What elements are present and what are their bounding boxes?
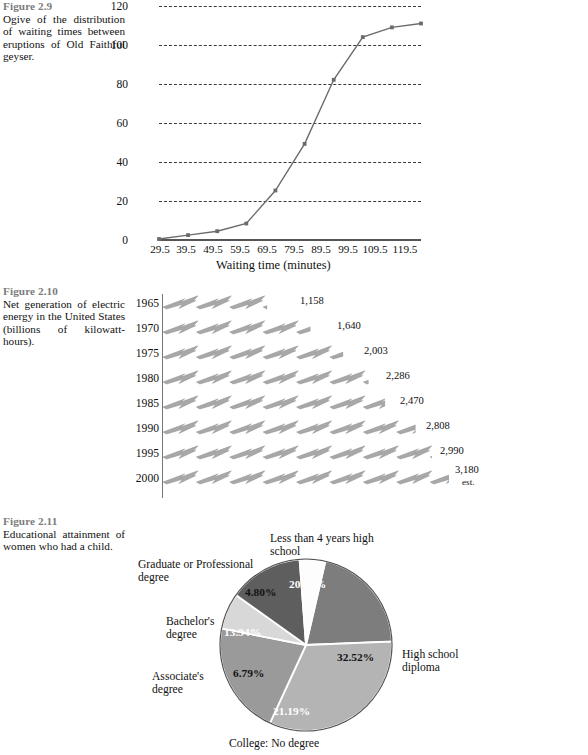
pictograph-bar — [163, 471, 465, 484]
pie-value-less-than-4-years-high-school: 20.75% — [289, 578, 326, 590]
x-axis-title: Waiting time (minutes) — [216, 258, 331, 273]
lightning-bolt-icon — [297, 346, 332, 359]
lightning-bolt-icon — [330, 446, 365, 459]
figure-2-10: Figure 2.10 Net generation of electric e… — [0, 285, 588, 510]
y-tick-120: 120 — [102, 0, 128, 12]
lightning-bolt-icon — [297, 421, 332, 434]
lightning-bolt-icon — [196, 471, 231, 484]
lightning-bolt-icon — [263, 421, 298, 434]
lightning-bolt-icon — [163, 396, 198, 409]
x-tick-4: 69.5 — [253, 243, 281, 255]
pictograph-value-2000: 3,180 — [455, 464, 479, 475]
y-tick-60: 60 — [102, 117, 128, 129]
lightning-bolt-icon — [163, 421, 198, 434]
figure-2-9-caption-text: Ogive of the distribution of waiting tim… — [3, 13, 125, 63]
lightning-bolt-icon — [363, 471, 398, 484]
lightning-bolt-icon — [397, 471, 432, 484]
lightning-bolt-icon — [230, 421, 265, 434]
lightning-bolt-icon — [363, 421, 398, 434]
lightning-bolt-icon — [230, 346, 265, 359]
lightning-bolt-icon — [330, 346, 365, 359]
pie-label-high-school-diploma: High school diploma — [402, 648, 484, 675]
pie-value-associates-degree: 6.79% — [233, 667, 264, 679]
pie-label-bachelors-degree: Bachelor's degree — [166, 615, 224, 642]
ogive-data-point — [274, 189, 278, 193]
pie-label-associates-degree: Associate's degree — [152, 670, 222, 697]
lightning-bolt-icon — [230, 371, 265, 384]
ogive-data-point — [186, 233, 190, 237]
ogive-data-point — [390, 26, 394, 30]
pie-label-graduate-or-professional-degree: Graduate or Professional degree — [138, 558, 264, 585]
y-tick-80: 80 — [102, 78, 128, 90]
ogive-polyline — [159, 24, 421, 240]
lightning-bolt-icon — [363, 446, 398, 459]
lightning-bolt-icon — [263, 446, 298, 459]
lightning-bolt-icon — [363, 396, 398, 409]
pie-value-college-no-degree: 21.19% — [273, 705, 310, 717]
lightning-bolt-icon — [330, 471, 365, 484]
lightning-bolt-icon — [263, 371, 298, 384]
lightning-bolt-icon — [196, 346, 231, 359]
lightning-bolt-icon — [196, 371, 231, 384]
x-tick-6: 89.5 — [307, 243, 335, 255]
lightning-bolt-icon — [163, 446, 198, 459]
ogive-plot-area: 120 100 80 60 40 20 0 29.5 39.5 49.5 59.… — [128, 0, 428, 250]
pictograph-bar — [163, 321, 332, 334]
y-tick-0: 0 — [102, 234, 128, 246]
pictograph-plot-area: 1965 1970 1975 1980 1985 1990 1995 2000 … — [0, 285, 588, 510]
lightning-bolt-icon — [163, 371, 198, 384]
ogive-data-point — [215, 229, 219, 233]
pictograph-bar — [163, 296, 298, 309]
ogive-data-point — [244, 222, 248, 226]
x-tick-0: 29.5 — [146, 243, 174, 255]
lightning-bolt-icon — [297, 321, 332, 334]
lightning-bolt-icon — [263, 296, 298, 309]
lightning-bolt-icon — [263, 471, 298, 484]
ogive-data-point — [303, 142, 307, 146]
pictograph-bar — [163, 421, 432, 434]
lightning-bolt-icon-bars — [0, 285, 588, 510]
lightning-bolt-icon — [163, 296, 198, 309]
pie-label-college-no-degree: College: No degree — [229, 737, 379, 750]
pictograph-bar — [163, 346, 365, 359]
pictograph-estimate-note: est. — [462, 477, 475, 487]
pie-value-high-school-diploma: 32.52% — [337, 651, 374, 663]
lightning-bolt-icon — [263, 321, 298, 334]
x-tick-9: 119.5 — [389, 243, 421, 255]
pictograph-value-1965: 1,158 — [300, 295, 324, 306]
pie-plot-area: 20.75% 32.52% 21.19% 6.79% 13.94% 4.80% … — [0, 515, 588, 755]
y-tick-40: 40 — [102, 156, 128, 168]
lightning-bolt-icon — [330, 421, 365, 434]
lightning-bolt-icon — [196, 421, 231, 434]
lightning-bolt-icon — [230, 396, 265, 409]
lightning-bolt-icon — [330, 371, 365, 384]
pie-value-graduate-or-professional-degree: 4.80% — [245, 586, 276, 598]
y-tick-20: 20 — [102, 195, 128, 207]
x-tick-8: 109.5 — [359, 243, 391, 255]
y-tick-100: 100 — [102, 39, 128, 51]
x-tick-3: 59.5 — [226, 243, 254, 255]
lightning-bolt-icon — [230, 446, 265, 459]
figure-2-9: Figure 2.9 Ogive of the distribution of … — [0, 0, 588, 282]
lightning-bolt-icon — [163, 471, 198, 484]
ogive-data-point — [332, 78, 336, 82]
lightning-bolt-icon — [297, 371, 332, 384]
pictograph-bar — [163, 446, 465, 459]
pictograph-bar — [163, 371, 398, 384]
lightning-bolt-icon — [263, 396, 298, 409]
lightning-bolt-icon — [230, 321, 265, 334]
pictograph-value-1990: 2,808 — [426, 420, 450, 431]
lightning-bolt-icon — [297, 396, 332, 409]
pictograph-value-1970: 1,640 — [337, 320, 361, 331]
x-tick-5: 79.5 — [280, 243, 308, 255]
pictograph-value-1975: 2,003 — [364, 345, 388, 356]
lightning-bolt-icon — [297, 471, 332, 484]
lightning-bolt-icon — [230, 296, 265, 309]
lightning-bolt-icon — [263, 346, 298, 359]
x-tick-2: 49.5 — [199, 243, 227, 255]
pictograph-bar — [163, 396, 398, 409]
lightning-bolt-icon — [196, 296, 231, 309]
lightning-bolt-icon — [330, 396, 365, 409]
lightning-bolt-icon — [196, 396, 231, 409]
x-tick-7: 99.5 — [334, 243, 362, 255]
